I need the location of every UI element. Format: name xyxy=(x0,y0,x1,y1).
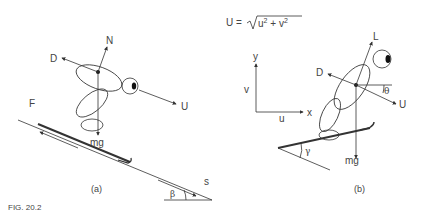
label-F: F xyxy=(29,98,35,109)
panel-b xyxy=(256,42,396,170)
friction-arrow xyxy=(40,132,78,148)
s-arrow xyxy=(158,180,196,196)
label-theta: θ xyxy=(384,86,389,96)
label-y: y xyxy=(253,51,258,62)
label-mg-a: mg xyxy=(90,137,104,148)
equation-radicand: u2 + v2 xyxy=(258,17,288,29)
velocity-arrow xyxy=(139,90,176,104)
lift-arrow xyxy=(356,42,372,85)
label-mg-b: mg xyxy=(345,155,359,166)
thigh-ellipse xyxy=(72,84,113,122)
ski xyxy=(38,124,130,162)
normal-force-arrow xyxy=(98,47,107,72)
label-U-a: U xyxy=(181,101,188,112)
equation-lhs: U = xyxy=(226,17,242,28)
torso-ellipse-b xyxy=(327,59,376,115)
label-U-b: U xyxy=(399,99,406,110)
label-N: N xyxy=(106,35,113,46)
figure-caption: FIG. 20.2 xyxy=(8,203,42,212)
landing-slope xyxy=(278,148,330,170)
velocity-arrow-b xyxy=(356,85,396,104)
thigh-ellipse-b xyxy=(315,95,345,134)
label-gamma: γ xyxy=(305,146,310,156)
head-eye-b xyxy=(386,55,391,63)
label-D-b: D xyxy=(316,67,323,78)
label-L: L xyxy=(373,31,379,42)
label-D-a: D xyxy=(50,53,57,64)
figure-canvas: N D U F mg s β (a) U = u2 + v2 xyxy=(0,0,425,215)
drag-arrow-b xyxy=(328,74,356,85)
label-beta: β xyxy=(170,189,175,199)
panel-a xyxy=(18,47,212,200)
gamma-angle-arc xyxy=(300,143,302,158)
label-s: s xyxy=(204,176,209,187)
panel-a-label: (a) xyxy=(91,184,102,194)
slope-line xyxy=(18,120,212,200)
label-v: v xyxy=(244,84,249,95)
head-eye xyxy=(132,83,136,90)
label-u: u xyxy=(279,113,285,124)
panel-b-label: (b) xyxy=(354,184,365,194)
label-x: x xyxy=(307,107,312,118)
shin-ellipse xyxy=(81,119,103,131)
